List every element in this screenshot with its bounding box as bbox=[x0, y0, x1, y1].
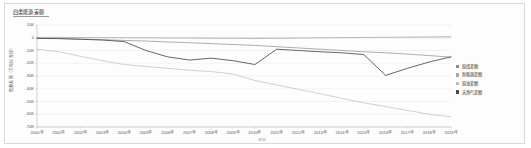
legend-item-label: 新能源差额 bbox=[462, 72, 482, 77]
x-tick-label: 2019年 bbox=[438, 130, 464, 135]
series-line bbox=[37, 38, 451, 57]
legend-item[interactable]: 天然气差额 bbox=[456, 88, 522, 97]
legend-item-label: 原煤差额 bbox=[462, 64, 478, 69]
legend-swatch-icon bbox=[456, 73, 459, 76]
series-line bbox=[37, 38, 451, 75]
chart-legend: 原煤差额新能源差额原油差额天然气差额 bbox=[456, 62, 522, 96]
plot-area: 能源差额（万吨标准煤） 年份 10K0-10K-20K-30K-40K-50K-… bbox=[5, 4, 526, 145]
legend-swatch-icon bbox=[456, 90, 459, 93]
chart-panel: 四类能源差额 能源差额（万吨标准煤） 年份 10K0-10K-20K-30K-4… bbox=[4, 3, 525, 144]
line-chart-svg bbox=[5, 4, 526, 145]
legend-swatch-icon bbox=[456, 82, 459, 85]
legend-item[interactable]: 原油差额 bbox=[456, 79, 522, 88]
y-tick-label: -30K bbox=[12, 74, 34, 78]
y-tick-label: -20K bbox=[12, 61, 34, 65]
legend-item-label: 天然气差额 bbox=[462, 90, 482, 95]
legend-item[interactable]: 原煤差额 bbox=[456, 62, 522, 71]
y-tick-label: 0 bbox=[12, 36, 34, 40]
y-tick-label: -40K bbox=[12, 87, 34, 91]
y-axis-label: 能源差额（万吨标准煤） bbox=[8, 46, 14, 92]
legend-item-label: 原油差额 bbox=[462, 81, 478, 86]
series-line bbox=[37, 49, 451, 117]
y-tick-label: -50K bbox=[12, 100, 34, 104]
y-tick-label: -10K bbox=[12, 49, 34, 53]
y-tick-label: -70K bbox=[12, 125, 34, 129]
x-axis-label: 年份 bbox=[237, 137, 287, 142]
y-tick-label: 10K bbox=[12, 23, 34, 27]
legend-item[interactable]: 新能源差额 bbox=[456, 71, 522, 80]
legend-swatch-icon bbox=[456, 65, 459, 68]
y-tick-label: -60K bbox=[12, 112, 34, 116]
